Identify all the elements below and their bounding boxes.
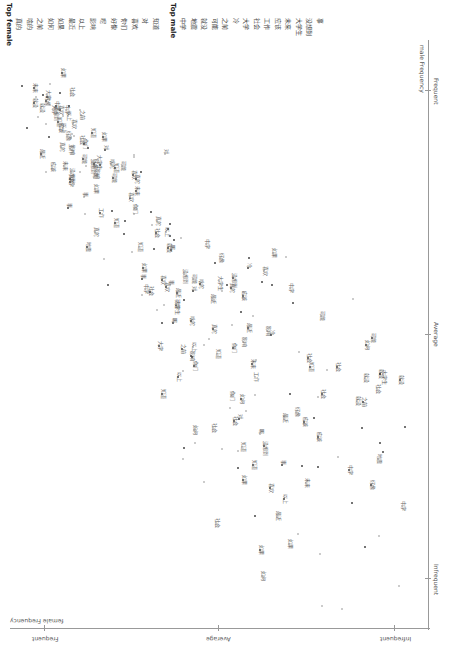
term-point[interactable] xyxy=(337,456,339,458)
term-point[interactable] xyxy=(103,258,105,260)
term-point[interactable] xyxy=(319,553,321,555)
term-point[interactable] xyxy=(151,224,153,226)
term-point[interactable] xyxy=(240,311,242,313)
term-label: 社会 xyxy=(155,228,162,238)
term-point[interactable] xyxy=(398,585,400,587)
term-point[interactable] xyxy=(361,427,363,429)
term-label: 中学 xyxy=(348,465,355,475)
term-point[interactable] xyxy=(254,394,256,396)
term-point[interactable] xyxy=(313,417,315,419)
term-point[interactable] xyxy=(21,85,23,87)
term-point[interactable] xyxy=(245,410,247,412)
term-point[interactable] xyxy=(133,156,135,158)
term-point[interactable] xyxy=(271,284,273,286)
term-point[interactable] xyxy=(169,235,171,237)
term-point[interactable] xyxy=(63,131,65,133)
term-point[interactable] xyxy=(364,546,366,548)
term-point[interactable] xyxy=(229,407,231,409)
term-point[interactable] xyxy=(221,290,223,292)
term-point[interactable] xyxy=(163,304,165,306)
term-point[interactable] xyxy=(317,466,319,468)
term-point[interactable] xyxy=(68,105,70,107)
term-label: 社会 xyxy=(212,423,219,433)
term-point[interactable] xyxy=(161,322,163,324)
term-point[interactable] xyxy=(150,211,152,213)
term-label: 社会 xyxy=(307,353,314,363)
term-label: 喜欢 xyxy=(263,266,270,276)
term-point[interactable] xyxy=(378,535,380,537)
term-label: 影响 xyxy=(70,145,77,155)
term-point[interactable] xyxy=(298,351,300,353)
term-point[interactable] xyxy=(141,294,143,296)
term-point[interactable] xyxy=(48,136,50,138)
term-point[interactable] xyxy=(59,92,61,94)
term-label: 如何 xyxy=(240,394,247,404)
term-point[interactable] xyxy=(173,239,175,241)
term-point[interactable] xyxy=(213,299,215,301)
term-point[interactable] xyxy=(289,393,291,395)
term-point[interactable] xyxy=(124,220,126,222)
term-point[interactable] xyxy=(208,338,210,340)
term-point[interactable] xyxy=(156,309,158,311)
term-label: 影响 xyxy=(242,337,249,347)
term-point[interactable] xyxy=(73,135,75,137)
term-point[interactable] xyxy=(37,116,39,118)
term-label: 以上 xyxy=(177,372,184,382)
term-label: 真的 xyxy=(69,174,76,184)
term-point[interactable] xyxy=(183,447,185,449)
term-point[interactable] xyxy=(203,481,205,483)
term-point[interactable] xyxy=(351,502,353,504)
term-point[interactable] xyxy=(301,465,303,467)
term-point[interactable] xyxy=(180,237,182,239)
term-label: 喜欢 xyxy=(129,192,136,202)
term-point[interactable] xyxy=(261,281,263,283)
term-label: 没想到 xyxy=(263,441,270,456)
term-point[interactable] xyxy=(326,369,328,371)
term-label: 未来 xyxy=(251,359,258,369)
term-point[interactable] xyxy=(226,284,228,286)
term-point[interactable] xyxy=(382,451,384,453)
term-point[interactable] xyxy=(45,171,47,173)
term-point[interactable] xyxy=(214,262,216,264)
term-point[interactable] xyxy=(84,213,86,215)
term-point[interactable] xyxy=(73,183,75,185)
term-point[interactable] xyxy=(153,248,155,250)
term-point[interactable] xyxy=(221,448,223,450)
term-point[interactable] xyxy=(107,284,109,286)
term-point[interactable] xyxy=(131,251,133,253)
term-point[interactable] xyxy=(231,324,233,326)
term-point[interactable] xyxy=(252,315,254,317)
term-point[interactable] xyxy=(182,458,184,460)
term-point[interactable] xyxy=(321,605,323,607)
term-point[interactable] xyxy=(26,127,28,129)
term-point[interactable] xyxy=(352,298,354,300)
term-point[interactable] xyxy=(45,123,47,125)
term-point[interactable] xyxy=(123,233,125,235)
term-point[interactable] xyxy=(254,515,256,517)
term-point[interactable] xyxy=(111,210,113,212)
term-point[interactable] xyxy=(169,223,171,225)
term-point[interactable] xyxy=(237,450,239,452)
term-point[interactable] xyxy=(285,256,287,258)
term-point[interactable] xyxy=(404,426,406,428)
term-point[interactable] xyxy=(140,171,142,173)
term-point[interactable] xyxy=(183,299,185,301)
term-label: 社会 xyxy=(70,87,77,97)
term-point[interactable] xyxy=(248,257,250,259)
term-point[interactable] xyxy=(292,302,294,304)
term-point[interactable] xyxy=(203,344,205,346)
term-point[interactable] xyxy=(237,467,239,469)
term-point[interactable] xyxy=(379,442,381,444)
term-point[interactable] xyxy=(133,154,135,156)
term-point[interactable] xyxy=(194,442,196,444)
term-point[interactable] xyxy=(42,94,44,96)
term-label: 可能 xyxy=(320,311,327,321)
term-point[interactable] xyxy=(85,165,87,167)
term-point[interactable] xyxy=(49,83,51,85)
term-label: 事 xyxy=(281,460,288,465)
term-point[interactable] xyxy=(317,396,319,398)
term-point[interactable] xyxy=(79,171,81,173)
term-point[interactable] xyxy=(297,533,299,535)
term-point[interactable] xyxy=(341,608,343,610)
term-label: 应该 xyxy=(242,291,249,301)
